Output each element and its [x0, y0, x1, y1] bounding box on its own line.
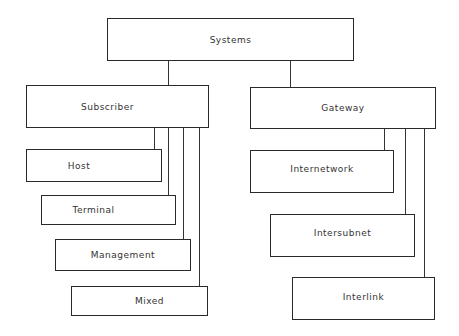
connector-systems-gateway	[290, 60, 291, 88]
node-terminal: Terminal	[41, 195, 176, 225]
connector-systems-subscriber	[168, 60, 169, 86]
connector-gateway-internetwork	[384, 128, 385, 151]
connector-gateway-intersubnet	[405, 128, 406, 215]
connector-subscriber-management	[183, 127, 184, 240]
connector-subscriber-mixed	[199, 127, 200, 287]
node-management: Management	[55, 239, 191, 271]
node-internetwork: Internetwork	[250, 150, 394, 193]
connector-gateway-interlink	[424, 128, 425, 278]
node-subscriber: Subscriber	[26, 85, 209, 128]
connector-subscriber-terminal	[168, 127, 169, 196]
node-mixed: Mixed	[71, 286, 208, 316]
connector-subscriber-host	[154, 127, 155, 150]
node-systems: Systems	[107, 18, 354, 61]
node-gateway: Gateway	[250, 87, 436, 129]
node-host: Host	[26, 149, 162, 182]
node-intersubnet: Intersubnet	[270, 214, 415, 257]
node-interlink: Interlink	[292, 277, 435, 320]
